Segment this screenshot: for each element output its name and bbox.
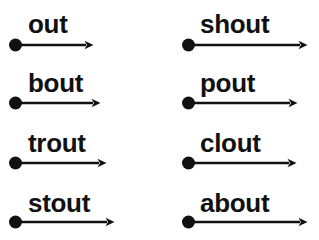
start-dot-icon [182, 157, 195, 170]
start-dot-icon [9, 97, 22, 110]
arrow-marker [7, 154, 111, 172]
arrow-marker [7, 94, 105, 112]
arrow-marker [7, 213, 119, 231]
word-label: trout [28, 130, 86, 156]
word-label: pout [200, 70, 255, 96]
start-dot-icon [182, 97, 195, 110]
start-dot-icon [9, 39, 22, 52]
arrow-marker [180, 154, 301, 172]
start-dot-icon [9, 216, 22, 229]
word-family-diagram: outbouttroutstoutshoutpoutcloutabout [0, 0, 319, 240]
word-label: bout [28, 70, 83, 96]
word-label: out [28, 11, 68, 37]
word-label: shout [200, 11, 269, 37]
arrow-marker [7, 36, 98, 54]
start-dot-icon [182, 39, 195, 52]
start-dot-icon [9, 157, 22, 170]
arrow-marker [180, 36, 312, 54]
arrow-marker [180, 213, 312, 231]
word-label: clout [200, 130, 261, 156]
start-dot-icon [182, 216, 195, 229]
arrow-marker [180, 94, 302, 112]
